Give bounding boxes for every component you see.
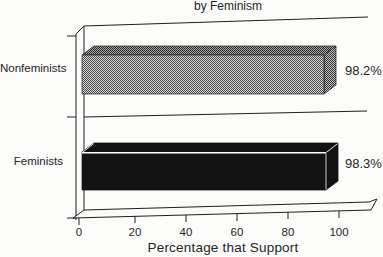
category-label-feminists: Feminists — [0, 155, 63, 168]
bar-nonfeminists-front-face — [82, 55, 324, 94]
bar-nonfeminists-top-face — [82, 46, 336, 55]
y-axis-top-edge — [76, 26, 84, 34]
plot-top-back-line — [84, 17, 368, 26]
chart-canvas — [0, 0, 383, 257]
bar-feminists — [82, 143, 338, 190]
bar-feminists-top-face — [82, 143, 338, 152]
chart-title: by Feminism — [128, 0, 328, 13]
x-tick-label-80: 80 — [273, 226, 303, 238]
x-axis-floor — [73, 199, 377, 218]
x-tick-label-20: 20 — [120, 226, 150, 238]
value-label-feminists: 98.3% — [345, 156, 382, 171]
category-divider-line — [84, 111, 367, 117]
x-tick-label-0: 0 — [64, 226, 94, 238]
category-label-nonfeminists: Nonfeminists — [0, 62, 63, 75]
x-tick-label-40: 40 — [171, 226, 201, 238]
bar-chart-figure: by Feminism Nonfeminists Feminists 98.2%… — [0, 0, 383, 257]
bar-feminists-front-face — [82, 152, 326, 190]
bar-nonfeminists — [82, 46, 336, 94]
bar-nonfeminists-side-face — [324, 46, 336, 94]
x-axis-title: Percentage that Support — [123, 240, 323, 255]
x-tick-label-60: 60 — [222, 226, 252, 238]
x-tick-label-100: 100 — [324, 226, 354, 238]
value-label-nonfeminists: 98.2% — [345, 63, 382, 78]
